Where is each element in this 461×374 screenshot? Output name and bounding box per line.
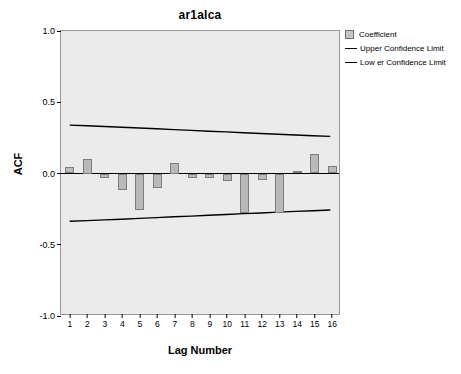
x-tick-mark: [209, 314, 210, 318]
y-tick-mark: [57, 102, 61, 103]
x-tick-mark: [174, 314, 175, 318]
x-tick-label: 9: [207, 319, 212, 329]
x-tick: 6: [155, 314, 160, 329]
legend-item: Low er Confidence Limit: [345, 56, 457, 69]
y-tick-label: 0.0: [42, 169, 57, 179]
x-tick: 8: [190, 314, 195, 329]
y-tick-label: 0.5: [42, 97, 57, 107]
x-tick-label: 10: [223, 319, 232, 329]
acf-bar: [293, 171, 302, 174]
plot-inner: [61, 31, 339, 314]
y-tick: -0.5: [39, 240, 61, 250]
x-tick-label: 7: [172, 319, 177, 329]
x-tick: 1: [67, 314, 72, 329]
y-tick-mark: [57, 173, 61, 174]
x-tick: 15: [310, 314, 319, 329]
acf-bar: [100, 174, 109, 179]
legend-label: Coefficient: [359, 30, 397, 39]
x-tick-label: 15: [310, 319, 319, 329]
x-tick-label: 12: [258, 319, 267, 329]
legend-line-swatch-icon: [345, 48, 357, 49]
x-axis-title: Lag Number: [60, 344, 340, 356]
y-tick-mark: [57, 316, 61, 317]
acf-bar: [310, 154, 319, 174]
acf-bar: [258, 174, 267, 180]
acf-bar: [275, 174, 284, 214]
acf-bar: [65, 167, 74, 173]
y-tick: 0.5: [42, 97, 61, 107]
plot-area: 1.00.50.0-0.5-1.0 1234567891011121314151…: [60, 30, 340, 315]
x-tick-label: 14: [293, 319, 302, 329]
x-tick: 16: [328, 314, 337, 329]
x-tick: 2: [85, 314, 90, 329]
x-tick-label: 3: [102, 319, 107, 329]
x-tick-mark: [157, 314, 158, 318]
x-tick-mark: [314, 314, 315, 318]
x-tick-mark: [279, 314, 280, 318]
legend-label: Low er Confidence Limit: [360, 58, 446, 67]
x-tick-mark: [69, 314, 70, 318]
acf-bar: [118, 174, 127, 190]
acf-bar: [205, 174, 214, 179]
acf-chart: ar1alca ACF 1.00.50.0-0.5-1.0 1234567891…: [0, 0, 461, 374]
y-tick: 1.0: [42, 26, 61, 36]
y-tick-mark: [57, 31, 61, 32]
y-axis-title: ACF: [12, 134, 24, 194]
y-tick-mark: [57, 244, 61, 245]
legend-box-swatch-icon: [345, 30, 354, 39]
x-tick: 3: [102, 314, 107, 329]
x-tick-mark: [227, 314, 228, 318]
chart-legend: CoefficientUpper Confidence LimitLow er …: [345, 28, 457, 70]
x-tick-label: 11: [240, 319, 249, 329]
legend-label: Upper Confidence Limit: [360, 44, 444, 53]
x-tick: 9: [207, 314, 212, 329]
x-tick-mark: [192, 314, 193, 318]
x-tick: 12: [258, 314, 267, 329]
x-tick-label: 13: [275, 319, 284, 329]
x-tick-label: 1: [67, 319, 72, 329]
x-tick-mark: [244, 314, 245, 318]
acf-bar: [135, 174, 144, 210]
y-tick-label: -0.5: [39, 240, 57, 250]
y-tick-label: 1.0: [42, 26, 57, 36]
acf-bar: [240, 174, 249, 213]
y-tick: 0.0: [42, 169, 61, 179]
y-tick: -1.0: [39, 311, 61, 321]
x-tick: 14: [293, 314, 302, 329]
x-tick: 5: [137, 314, 142, 329]
legend-item: Coefficient: [345, 28, 457, 41]
chart-title: ar1alca: [0, 8, 400, 22]
x-tick-label: 4: [120, 319, 125, 329]
x-tick-mark: [104, 314, 105, 318]
upper-confidence-limit-line: [70, 125, 331, 136]
x-tick-label: 6: [155, 319, 160, 329]
x-tick-mark: [139, 314, 140, 318]
acf-bar: [328, 166, 337, 174]
lower-confidence-limit-line: [70, 210, 331, 221]
acf-bar: [153, 174, 162, 189]
acf-bar: [188, 174, 197, 179]
x-tick-mark: [87, 314, 88, 318]
acf-bar: [170, 163, 179, 174]
x-tick-mark: [332, 314, 333, 318]
x-tick-mark: [297, 314, 298, 318]
acf-bar: [83, 159, 92, 173]
x-tick-label: 5: [137, 319, 142, 329]
x-tick-label: 16: [328, 319, 337, 329]
legend-item: Upper Confidence Limit: [345, 42, 457, 55]
acf-bar: [223, 174, 232, 182]
x-tick: 13: [275, 314, 284, 329]
x-tick-label: 8: [190, 319, 195, 329]
x-tick: 10: [223, 314, 232, 329]
x-tick: 11: [240, 314, 249, 329]
x-tick: 7: [172, 314, 177, 329]
x-tick-mark: [262, 314, 263, 318]
x-tick: 4: [120, 314, 125, 329]
legend-line-swatch-icon: [345, 62, 357, 63]
y-tick-label: -1.0: [39, 311, 57, 321]
x-tick-label: 2: [85, 319, 90, 329]
x-tick-mark: [122, 314, 123, 318]
